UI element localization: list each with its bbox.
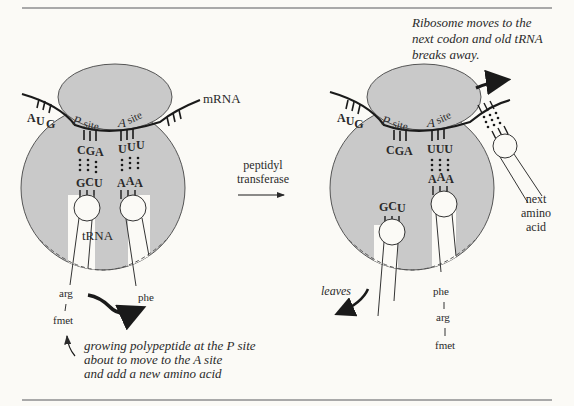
leaving-anticodon: GCU xyxy=(379,199,406,215)
p-amino-fmet: fmet xyxy=(53,314,73,326)
left-caption-line-1: growing polypeptide at the P site xyxy=(84,338,256,353)
chain-arg: arg xyxy=(436,311,450,323)
caption-pointer-arrow-icon xyxy=(67,336,75,356)
a-trna-head xyxy=(431,191,457,217)
left-ribosome: mRNA A U G P site A site CGA U U U xyxy=(21,64,256,381)
start-codon-a: A xyxy=(27,111,36,125)
transfer-arrow-icon xyxy=(88,295,140,313)
start-codon: AUG xyxy=(337,111,364,131)
left-caption-line-2: about to move to the A site xyxy=(84,352,222,367)
a-site-letter: A xyxy=(426,115,435,130)
left-caption-line-3: and add a new amino acid xyxy=(84,366,222,381)
next-amino-acid-line-2: amino xyxy=(521,206,551,220)
a-anticodon: AAA xyxy=(117,174,143,190)
a-trna-head xyxy=(120,195,146,221)
p-trna-head xyxy=(74,195,100,221)
start-codon-u: U xyxy=(36,114,45,128)
p-amino-arg: arg xyxy=(59,287,73,299)
translation-diagram: mRNA A U G P site A site CGA U U U xyxy=(0,0,574,406)
next-amino-acid-line-1: next xyxy=(526,192,547,206)
next-amino-acid-line-3: acid xyxy=(526,220,546,234)
p-codon: CGA xyxy=(386,143,413,158)
a-codon: U xyxy=(118,142,127,156)
chain-phe: phe xyxy=(433,285,449,297)
reaction-step: peptidyl transferase xyxy=(237,158,289,195)
leaves-label: leaves xyxy=(321,284,351,298)
ribosome-move-arrow-icon xyxy=(476,80,505,88)
a-site-letter: A xyxy=(117,115,126,130)
p-anticodon: GCU xyxy=(76,175,103,190)
chain-fmet: fmet xyxy=(435,339,455,351)
right-caption-line-2: next codon and old tRNA xyxy=(412,31,543,46)
p-codon: CGA xyxy=(77,143,104,159)
a-codon: UUU xyxy=(427,142,453,156)
a-anticodon: AAA xyxy=(428,170,454,186)
trna-label: tRNA xyxy=(82,228,114,243)
right-ribosome: AUG P site A site CGA UUU AAA GCU xyxy=(321,15,551,351)
right-caption-line-1: Ribosome moves to the xyxy=(411,15,532,30)
enzyme-label-line-2: transferase xyxy=(237,172,289,186)
a-amino-phe: phe xyxy=(138,291,154,303)
a-codon-3: U xyxy=(136,138,145,152)
a-codon-2: U xyxy=(127,140,136,154)
leaving-trna-head xyxy=(379,219,405,245)
right-caption-line-3: breaks away. xyxy=(412,47,479,62)
start-codon-g: G xyxy=(46,117,55,131)
enzyme-label-line-1: peptidyl xyxy=(243,158,283,172)
mrna-label: mRNA xyxy=(203,91,241,106)
